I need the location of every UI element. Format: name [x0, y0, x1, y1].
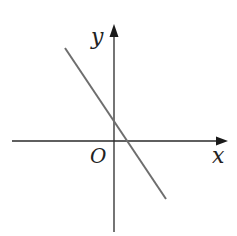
- graph-line: [65, 48, 166, 199]
- y-axis-label: y: [90, 24, 104, 49]
- x-axis-label: x: [212, 143, 225, 168]
- origin-label: O: [90, 144, 106, 168]
- coordinate-diagram: y x O: [0, 0, 237, 236]
- y-axis-arrow-icon: [110, 24, 119, 37]
